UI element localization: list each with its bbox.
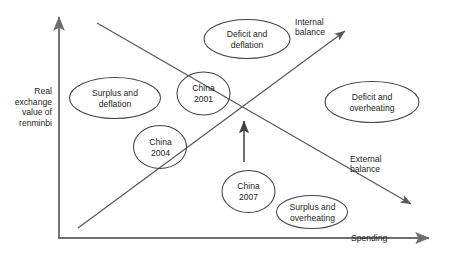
internal-balance-label: Internal balance [295,17,325,38]
label-deficit-and-deflation: Deficit and deflation [204,20,290,59]
label-surplus-and-overheating: Surplus and overheating [277,196,348,229]
caption-strip-cropped [0,252,450,264]
external-balance-label: External balance [350,154,382,175]
label-deficit-and-overheating: Deficit and overheating [325,82,419,123]
label-china-2007: China 2007 [222,171,275,213]
swan-diagram: Real exchange value of renminbi Spending… [0,0,450,264]
label-china-2001: China 2001 [177,72,230,115]
x-axis-label: Spending [351,233,387,243]
y-axis-label: Real exchange value of renminbi [2,86,52,128]
label-surplus-and-deflation: Surplus and deflation [70,78,160,119]
label-china-2004: China 2004 [134,126,187,169]
